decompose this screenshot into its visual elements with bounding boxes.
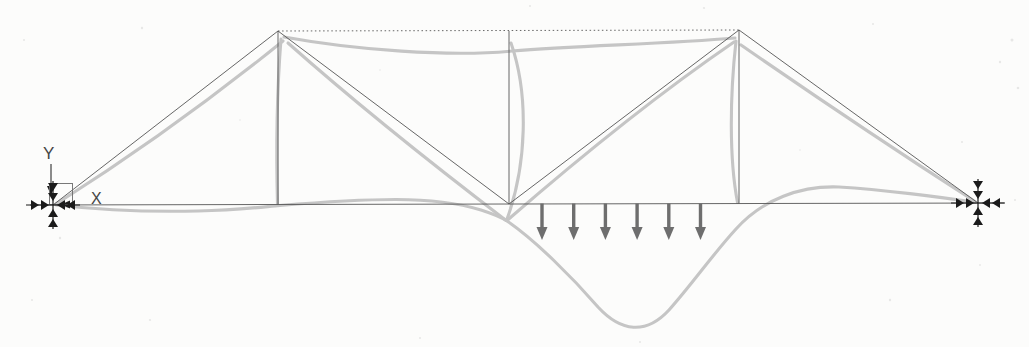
scan-speckle [889, 299, 891, 301]
scan-speckle [872, 23, 874, 25]
scan-speckle [149, 319, 151, 321]
scan-speckle [59, 237, 61, 239]
scan-speckle [23, 39, 25, 41]
scan-speckle [31, 299, 33, 301]
y-axis-label: Y [43, 144, 55, 164]
scan-speckle [799, 149, 801, 151]
scan-speckle [639, 341, 641, 343]
scan-speckle [1014, 199, 1016, 201]
figure-stage: Y X [0, 0, 1029, 347]
scan-speckle [999, 61, 1001, 63]
truss-deformed-shape-diagram [0, 0, 1029, 347]
scan-speckle [703, 7, 705, 9]
scan-speckle [1011, 39, 1014, 42]
scan-speckle [979, 264, 981, 266]
scan-speckle [141, 27, 143, 29]
scan-speckle [239, 119, 241, 121]
scan-speckle [961, 141, 963, 143]
x-axis-label: X [91, 190, 102, 208]
scan-speckle [419, 337, 421, 339]
scan-speckle [529, 5, 531, 7]
scan-speckle [379, 69, 381, 71]
scan-speckle [1017, 87, 1020, 90]
